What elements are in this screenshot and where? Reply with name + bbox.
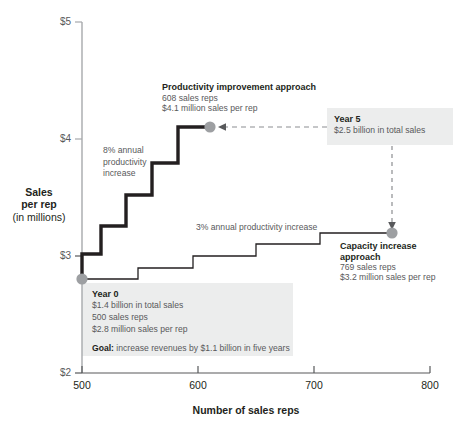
capacity-approach-sales: $3.2 million sales per rep: [340, 272, 453, 282]
eight-percent-line2: productivity: [103, 157, 146, 167]
y-tick-label-2: $2: [41, 367, 71, 379]
capacity-approach-callout: Capacity increase approach 769 sales rep…: [340, 241, 453, 283]
eight-percent-note: 8% annual productivity increase: [103, 145, 163, 180]
marker-productivity-end: [204, 121, 215, 132]
marker-capacity-end: [386, 227, 397, 238]
x-tick-label-500: 500: [62, 379, 102, 391]
chart-container: $5 $4 $3 $2 500 600 700 800 Sales per re…: [0, 0, 453, 430]
capacity-approach-reps: 769 sales reps: [340, 262, 453, 272]
y-axis-title-line3: (in millions): [0, 211, 78, 223]
year5-callout: Year 5 $2.5 billion in total sales: [334, 113, 452, 137]
x-tick-label-700: 700: [294, 379, 334, 391]
year0-total-sales: $1.4 billion in total sales: [92, 300, 292, 312]
y-axis-title: Sales per rep (in millions): [0, 186, 78, 223]
x-tick-label-600: 600: [178, 379, 218, 391]
y-tick-label-4: $4: [41, 133, 71, 145]
productivity-arrowhead: [218, 123, 226, 131]
year0-goal: Goal: increase revenues by $1.1 billion …: [92, 343, 292, 355]
year5-heading: Year 5: [334, 113, 452, 125]
three-percent-note: 3% annual productivity increase: [196, 222, 356, 234]
year0-callout: Year 0 $1.4 billion in total sales 500 s…: [92, 288, 292, 355]
x-axis-title: Number of sales reps: [146, 404, 346, 416]
eight-percent-line3: increase: [103, 168, 135, 178]
year0-reps: 500 sales reps: [92, 312, 292, 324]
y-axis-title-line1: Sales: [0, 186, 78, 198]
x-tick-label-800: 800: [410, 379, 450, 391]
productivity-approach-callout: Productivity improvement approach 608 sa…: [162, 82, 352, 113]
marker-year-0: [76, 273, 87, 284]
y-tick-label-3: $3: [41, 250, 71, 262]
productivity-approach-reps: 608 sales reps: [162, 93, 352, 103]
year0-sales-per-rep: $2.8 million sales per rep: [92, 324, 292, 336]
capacity-approach-heading-line1: Capacity increase: [340, 241, 453, 252]
year0-goal-label: Goal:: [92, 343, 114, 353]
productivity-approach-sales: $4.1 million sales per rep: [162, 103, 352, 113]
year0-heading: Year 0: [92, 288, 292, 300]
productivity-approach-heading: Productivity improvement approach: [162, 82, 352, 93]
y-tick-label-5: $5: [41, 16, 71, 28]
y-axis-title-line2: per rep: [0, 198, 78, 210]
year0-goal-text: increase revenues by $1.1 billion in fiv…: [114, 343, 290, 353]
eight-percent-line1: 8% annual: [103, 145, 144, 155]
year5-total-sales: $2.5 billion in total sales: [334, 125, 452, 137]
capacity-approach-heading-line2: approach: [340, 252, 453, 263]
